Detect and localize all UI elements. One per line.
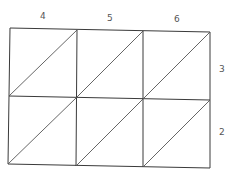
cell-diagonals [8, 30, 210, 167]
diagonal-r1c2 [76, 31, 143, 98]
lattice-grid-diagram: 4 5 6 3 2 [0, 0, 233, 174]
right-digit-1: 3 [219, 64, 225, 74]
diagonal-r2c2 [76, 99, 143, 166]
grid-lines [8, 28, 210, 168]
diagonal-r2c3 [143, 100, 210, 167]
bottom-border [8, 164, 210, 168]
middle-divider [9, 96, 210, 100]
top-digit-3: 6 [174, 14, 180, 24]
top-border [10, 28, 210, 32]
right-digit-2: 2 [219, 127, 225, 137]
diagonal-r1c1 [9, 30, 77, 96]
top-digit-1: 4 [40, 11, 46, 21]
diagonal-r2c1 [8, 98, 76, 164]
top-digit-2: 5 [107, 13, 113, 23]
diagonal-r1c3 [143, 32, 210, 99]
